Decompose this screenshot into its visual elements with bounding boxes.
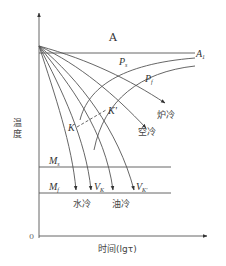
mf-label: Mf xyxy=(49,182,59,193)
oil-cooling-label: 油冷 xyxy=(112,200,130,209)
mf-label-sub: f xyxy=(57,187,59,193)
cct-diagram: 0 温度 时间(lgτ) A A1 Ms Mf Ps Pf K K' 炉冷 空冷… xyxy=(0,0,226,266)
k-label: K xyxy=(68,123,75,133)
vk-prime-label: VK' xyxy=(136,182,147,193)
ps-label: Ps xyxy=(119,57,127,68)
vk-prime-label-sub: K' xyxy=(142,187,147,193)
k-kprime-line xyxy=(77,110,106,127)
air-cooling-curve xyxy=(39,46,146,128)
furnace-cooling-label: 炉冷 xyxy=(157,111,175,120)
water-cooling-curve xyxy=(39,46,76,190)
y-axis-label: 温度 xyxy=(12,118,23,140)
water-cooling-label: 水冷 xyxy=(73,200,91,209)
critical-cooling-curve xyxy=(39,46,91,190)
air-cooling-label: 空冷 xyxy=(138,128,156,137)
a1-label-sub: 1 xyxy=(202,54,205,60)
vk-label: VK xyxy=(94,182,104,193)
vk-label-sub: K xyxy=(100,187,104,193)
a1-label: A1 xyxy=(196,49,205,60)
ms-label-sub: s xyxy=(57,161,59,167)
x-axis-label: 时间(lgτ) xyxy=(98,245,137,254)
k-prime-label: K' xyxy=(108,106,117,116)
ms-label: Ms xyxy=(49,156,60,167)
pf-label: Pf xyxy=(145,74,153,85)
ps-label-sub: s xyxy=(125,62,127,68)
origin-label: 0 xyxy=(29,233,34,241)
austenite-region-label: A xyxy=(109,32,117,43)
pf-label-sub: f xyxy=(151,79,153,85)
